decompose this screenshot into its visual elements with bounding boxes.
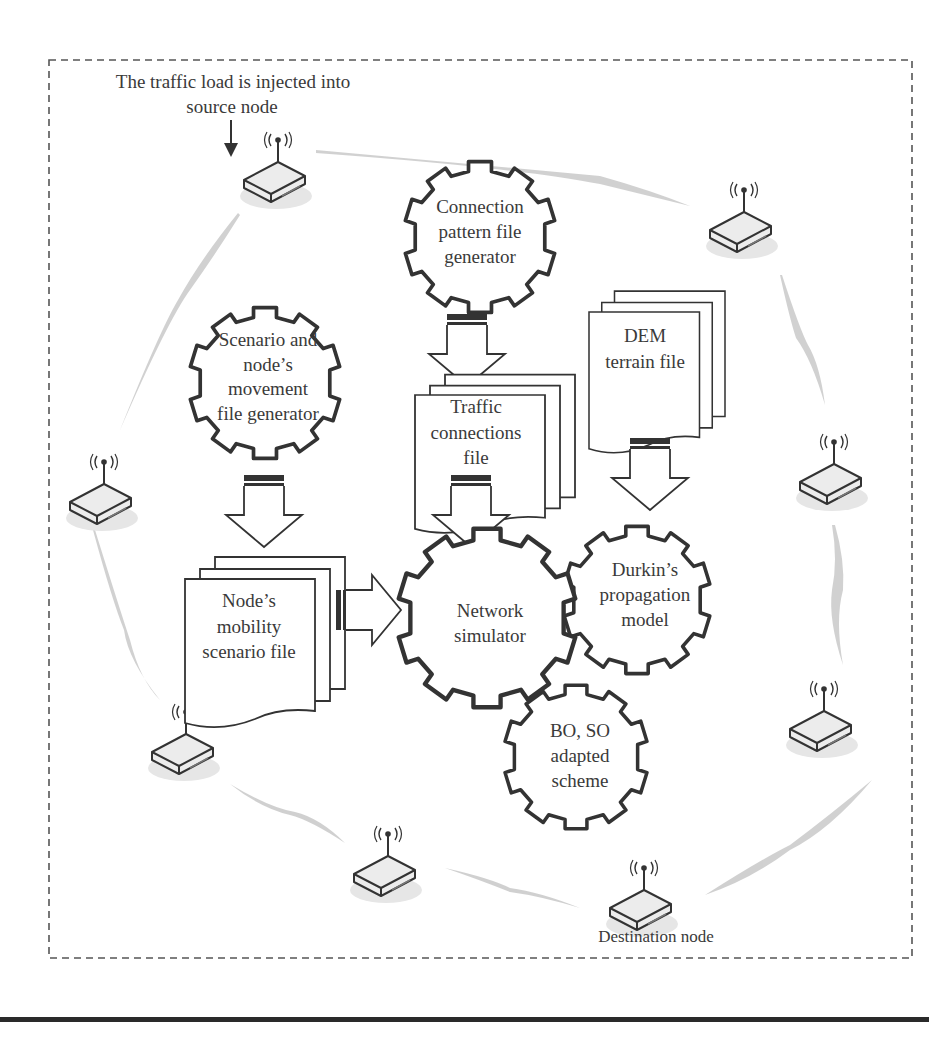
router-icon-source	[240, 132, 312, 209]
router-icon-top-right	[706, 182, 778, 259]
svg-text:pattern file: pattern file	[439, 221, 522, 242]
gear-durkin-propagation-model: Durkin’s propagation model	[564, 526, 710, 673]
destination-annotation: Destination node	[598, 927, 714, 946]
gear-connection-pattern-generator: Connection pattern file generator	[405, 162, 554, 313]
svg-text:Connection: Connection	[436, 196, 524, 217]
svg-text:propagation: propagation	[600, 584, 691, 605]
svg-text:Network: Network	[457, 600, 524, 621]
router-icon-bottom-right	[786, 681, 858, 758]
svg-text:Durkin’s: Durkin’s	[612, 559, 679, 580]
doc-traffic-connections-file: Traffic connections file	[415, 375, 575, 533]
svg-text:DEM: DEM	[624, 325, 666, 346]
source-annotation: The traffic load is injected into	[116, 71, 350, 92]
network-simulation-diagram: The traffic load is injected into source…	[0, 0, 929, 1042]
svg-text:Traffic: Traffic	[450, 396, 502, 417]
injection-arrow-icon	[224, 120, 238, 157]
router-icon-left	[66, 454, 138, 531]
svg-text:connections: connections	[431, 422, 522, 443]
svg-text:Node’s: Node’s	[222, 590, 276, 611]
gear-scenario-movement-generator: Scenario and node’s movement file genera…	[190, 308, 339, 459]
router-icon-bottom-middle	[350, 826, 422, 903]
svg-text:scenario file: scenario file	[202, 641, 295, 662]
svg-text:node’s: node’s	[243, 354, 293, 375]
svg-text:terrain file: terrain file	[605, 351, 685, 372]
arrow-to-mobility-file-icon	[226, 475, 302, 547]
svg-text:simulator: simulator	[454, 625, 526, 646]
svg-text:adapted: adapted	[550, 745, 610, 766]
gear-bo-so-adapted-scheme: BO, SO adapted scheme	[505, 685, 647, 829]
doc-node-mobility-scenario-file: Node’s mobility scenario file	[185, 557, 345, 727]
svg-text:scheme: scheme	[552, 770, 609, 791]
svg-text:BO, SO: BO, SO	[550, 720, 610, 741]
svg-text:file: file	[463, 447, 488, 468]
gear-network-simulator: Network simulator	[399, 529, 576, 707]
doc-dem-terrain-file: DEM terrain file	[589, 291, 725, 453]
bottom-rule-divider	[0, 1017, 929, 1022]
svg-text:movement: movement	[228, 378, 309, 399]
svg-text:file generator: file generator	[217, 403, 319, 424]
svg-text:mobility: mobility	[217, 616, 282, 637]
svg-text:generator: generator	[444, 246, 516, 267]
svg-text:Scenario and: Scenario and	[219, 329, 318, 350]
source-annotation-line2: source node	[186, 96, 277, 117]
svg-text:model: model	[621, 609, 669, 630]
router-icon-right	[796, 434, 868, 511]
router-icon-destination	[606, 860, 678, 937]
